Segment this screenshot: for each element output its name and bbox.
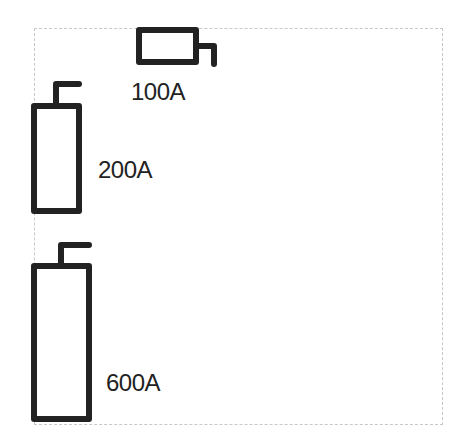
fuse-200a-icon	[34, 84, 79, 211]
fuse-100a-icon	[139, 30, 214, 64]
fuse-200a-label: 200A	[98, 156, 152, 184]
fuse-600a-icon	[34, 245, 89, 419]
fuse-diagram	[0, 0, 463, 444]
fuse-600a-label: 600A	[106, 369, 160, 397]
fuse-100a-label: 100A	[131, 78, 185, 106]
